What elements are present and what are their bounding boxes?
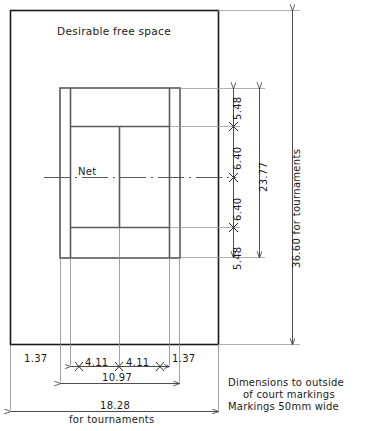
court-drawing [0, 0, 369, 431]
dimension-label-3660: 36.60 for tournaments [291, 149, 302, 268]
extension-lines-right [170, 89, 265, 258]
dimension-label-548-top: 5.48 [232, 97, 243, 120]
note-line-1: Dimensions to outside [228, 377, 344, 390]
note-line-3: Markings 50mm wide [228, 401, 339, 414]
dimension-label-548-bottom: 5.48 [232, 247, 243, 270]
for-tournaments-label: for tournaments [69, 414, 155, 425]
note-line-2: of court markings [243, 389, 335, 402]
dimension-label-411-left: 4.11 [85, 357, 108, 368]
dimension-label-640-bottom: 6.40 [232, 198, 243, 221]
free-space-label: Desirable free space [57, 25, 171, 37]
diagram-canvas: Desirable free space Net 5.48 6.40 6.40 … [0, 0, 369, 431]
dimension-label-1828: 18.28 [100, 400, 130, 411]
net-label: Net [78, 166, 96, 177]
dimension-label-137-left: 1.37 [24, 353, 47, 364]
dimension-label-640-top: 6.40 [232, 147, 243, 170]
dimension-label-2377: 23.77 [258, 162, 269, 192]
dimension-label-1097: 10.97 [102, 372, 132, 383]
dimension-label-137-right: 1.37 [172, 353, 195, 364]
dimension-label-411-right: 4.11 [126, 357, 149, 368]
